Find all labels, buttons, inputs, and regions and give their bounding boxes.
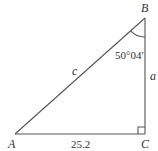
vertex-label-a: A xyxy=(8,138,15,150)
angle-arc-b xyxy=(131,31,145,37)
side-label-base: 25.2 xyxy=(71,139,90,150)
side-hypotenuse xyxy=(15,18,145,134)
vertex-label-c: C xyxy=(141,138,149,150)
side-label-c: c xyxy=(72,65,77,77)
triangle-diagram xyxy=(0,0,158,151)
angle-label-b: 50°04′ xyxy=(115,50,144,61)
side-label-a: a xyxy=(150,70,156,82)
vertex-label-b: B xyxy=(141,2,148,14)
right-angle-marker xyxy=(138,127,145,134)
